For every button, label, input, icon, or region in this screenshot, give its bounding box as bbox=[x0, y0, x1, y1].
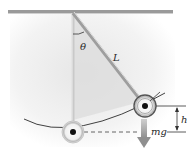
lower-bob bbox=[62, 121, 84, 143]
length-label: L bbox=[112, 52, 120, 63]
ceiling-shadow bbox=[8, 13, 173, 14]
pendulum-diagram: θ L h mg bbox=[0, 0, 196, 157]
angle-label: θ bbox=[80, 41, 86, 52]
ceiling bbox=[8, 10, 173, 13]
height-label: h bbox=[181, 114, 187, 125]
weight-label: mg bbox=[151, 126, 167, 137]
